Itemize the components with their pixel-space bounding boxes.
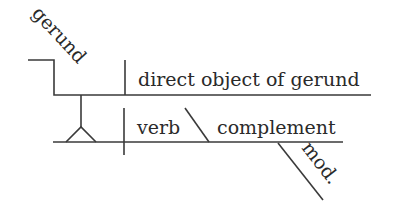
complement-label: complement	[217, 116, 336, 138]
sentence-diagram: gerund direct object of gerund verb comp…	[0, 0, 394, 212]
modifier-label: mod.	[298, 137, 345, 188]
complement-slash	[185, 108, 209, 142]
diagram-canvas: gerund direct object of gerund verb comp…	[0, 0, 394, 212]
verb-label: verb	[136, 116, 180, 138]
direct-object-label: direct object of gerund	[138, 68, 360, 90]
gerund-label: gerund	[28, 2, 91, 68]
pedestal-legs	[66, 127, 96, 142]
